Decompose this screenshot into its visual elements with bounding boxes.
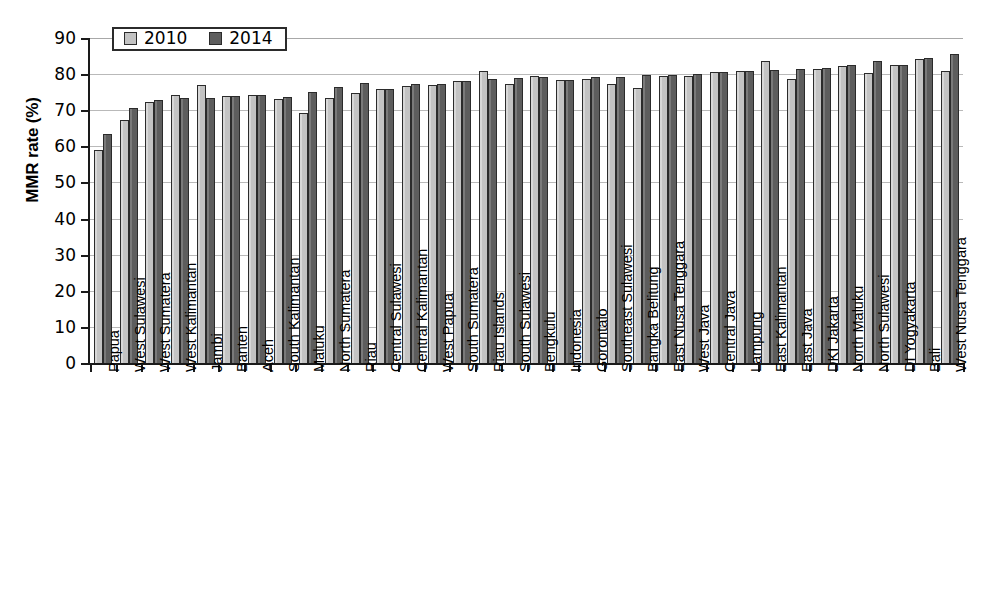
x-tick-label: DKI Jakarta (826, 142, 841, 372)
x-tick-label: South Sumatera (466, 142, 481, 372)
x-tick-label: East Java (800, 142, 815, 372)
x-tick-label: East Nusa Tenggara (672, 142, 687, 372)
mmr-rate-bar-chart: MMR rate (%) 0102030405060708090 PapuaWe… (0, 0, 1002, 596)
legend-label-2010: 2010 (144, 30, 187, 47)
x-tick-label: Lampung (749, 142, 764, 372)
y-tick-label-50: 50 (32, 174, 76, 191)
y-tick-label-70: 70 (32, 102, 76, 119)
y-tick-label-80: 80 (32, 66, 76, 83)
y-tick-90 (81, 38, 90, 40)
x-tick-label: South Kalimantan (287, 142, 302, 372)
y-tick-label-30: 30 (32, 247, 76, 264)
x-tick-label: West Nusa Tenggara (954, 142, 969, 372)
x-tick-label: Riau Islands (492, 142, 507, 372)
y-tick-50 (81, 182, 90, 184)
x-tick-label: Central Java (723, 142, 738, 372)
y-tick-60 (81, 146, 90, 148)
x-tick-label: Maluku (312, 142, 327, 372)
legend: 2010 2014 (112, 27, 287, 51)
y-tick-label-20: 20 (32, 283, 76, 300)
x-tick-label: Bengkulu (543, 142, 558, 372)
y-tick-10 (81, 327, 90, 329)
legend-swatch-2010-icon (124, 32, 137, 45)
x-tick-label: West Java (697, 142, 712, 372)
legend-item-2014[interactable]: 2014 (209, 30, 272, 47)
x-tick-label: East Kalimantan (774, 142, 789, 372)
y-tick-30 (81, 255, 90, 257)
x-tick-label: West Sulawesi (133, 142, 148, 372)
x-tick-label: Bangka Belitung (646, 142, 661, 372)
bar-2010[interactable] (94, 150, 103, 363)
x-tick-label: North Sumatera (338, 142, 353, 372)
x-tick-label: DI Yogyakarta (903, 142, 918, 372)
x-tick-label: Central Sulawesi (389, 142, 404, 372)
x-tick-label: Riau (364, 142, 379, 372)
y-tick-80 (81, 74, 90, 76)
y-tick-label-60: 60 (32, 138, 76, 155)
x-tick-label: North Maluku (851, 142, 866, 372)
x-tick-label: West Kalimantan (184, 142, 199, 372)
y-tick-40 (81, 219, 90, 221)
y-tick-label-10: 10 (32, 319, 76, 336)
y-tick-label-40: 40 (32, 211, 76, 228)
x-tick-label: Southeast Sulawesi (620, 142, 635, 372)
x-tick-label: West Sumatera (158, 142, 173, 372)
x-tick-label: West Papua (441, 142, 456, 372)
x-tick-label: South Sulawesi (518, 142, 533, 372)
x-tick-label: Central Kalimantan (415, 142, 430, 372)
x-tick-label: Jambi (210, 142, 225, 372)
legend-label-2014: 2014 (229, 30, 272, 47)
y-tick-label-90: 90 (32, 30, 76, 47)
y-tick-70 (81, 110, 90, 112)
legend-item-2010[interactable]: 2010 (124, 30, 187, 47)
x-tick-label: Aceh (261, 142, 276, 372)
x-tick (90, 363, 92, 372)
x-tick-label: Gorontalo (595, 142, 610, 372)
x-tick-label: Bali (928, 142, 943, 372)
x-tick-label: Papua (107, 142, 122, 372)
y-tick-0 (81, 363, 90, 365)
x-tick-label: North Sulawesi (877, 142, 892, 372)
y-tick-label-0: 0 (32, 355, 76, 372)
legend-swatch-2014-icon (209, 32, 222, 45)
x-tick-label: Banten (235, 142, 250, 372)
x-tick-label: Indonesia (569, 142, 584, 372)
y-tick-20 (81, 291, 90, 293)
